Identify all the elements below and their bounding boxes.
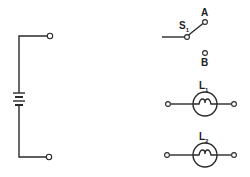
battery-terminal-top[interactable] — [47, 33, 52, 38]
battery-top-wire — [19, 36, 47, 93]
switch-label: S1 — [179, 20, 190, 33]
lamp2-terminal-left[interactable] — [165, 153, 170, 158]
battery-circuit — [13, 33, 53, 159]
battery-bottom-wire — [19, 105, 46, 157]
switch-terminal-b[interactable] — [203, 51, 208, 56]
lamp1-label: L1 — [199, 80, 209, 93]
switch-s1[interactable]: S1 A B — [162, 7, 208, 68]
lamp1-filament-icon — [193, 99, 217, 104]
lamp2-terminal-right[interactable] — [232, 153, 237, 158]
circuit-diagram: S1 A B L1 L2 — [0, 0, 250, 177]
lamp1-terminal-right[interactable] — [232, 102, 237, 107]
battery-terminal-bottom[interactable] — [46, 154, 51, 159]
switch-terminal-a[interactable] — [203, 20, 208, 25]
lamp2-filament-icon — [193, 150, 217, 155]
switch-pivot-terminal[interactable] — [185, 35, 190, 40]
switch-lever[interactable] — [188, 24, 203, 36]
lamp-l2[interactable]: L2 — [165, 131, 237, 167]
lamp2-label: L2 — [199, 131, 209, 144]
lamp1-terminal-left[interactable] — [166, 102, 171, 107]
lamp-l1[interactable]: L1 — [166, 80, 237, 116]
switch-label-b: B — [201, 57, 208, 68]
switch-label-a: A — [201, 7, 208, 18]
